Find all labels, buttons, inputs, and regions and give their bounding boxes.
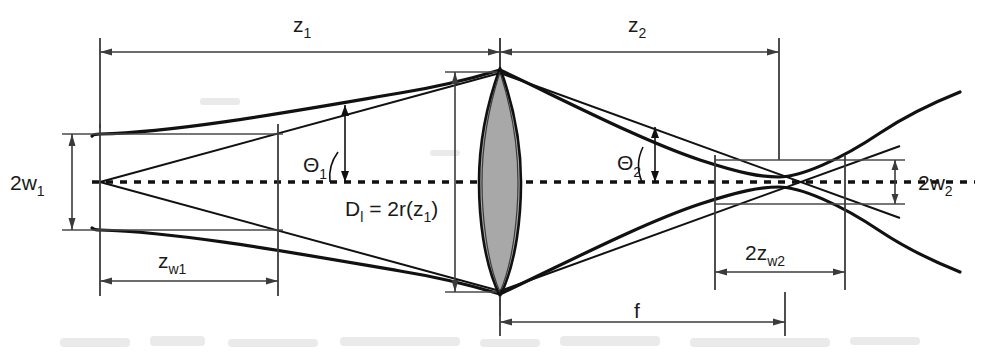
waist2-construction xyxy=(715,155,905,290)
label-2w2: 2w2 xyxy=(918,171,953,199)
label-2zw2: 2zw2 xyxy=(745,241,785,269)
dimension-2zw2 xyxy=(715,269,845,276)
label-z1: z1 xyxy=(293,13,312,41)
label-theta1: Θ1 xyxy=(303,153,327,182)
label-aperture: Dl = 2r(z1) xyxy=(345,197,438,225)
beam-diagram-svg: z1 z2 2w1 2w2 Θ1 Θ2 zw1 2zw2 f Dl = 2r(z… xyxy=(0,0,982,358)
dimension-focal-length xyxy=(500,292,785,336)
label-2w1: 2w1 xyxy=(10,171,45,199)
dimension-zw1 xyxy=(100,124,278,296)
dimension-z1 xyxy=(100,38,500,128)
dimension-z2 xyxy=(500,38,779,160)
label-zw1: zw1 xyxy=(158,249,187,277)
lens xyxy=(479,38,521,316)
optics-diagram: z1 z2 2w1 2w2 Θ1 Θ2 zw1 2zw2 f Dl = 2r(z… xyxy=(0,0,982,358)
angle-theta2 xyxy=(639,127,659,182)
label-z2: z2 xyxy=(628,13,647,41)
label-theta2: Θ2 xyxy=(617,151,641,180)
label-focal-length: f xyxy=(634,299,640,322)
